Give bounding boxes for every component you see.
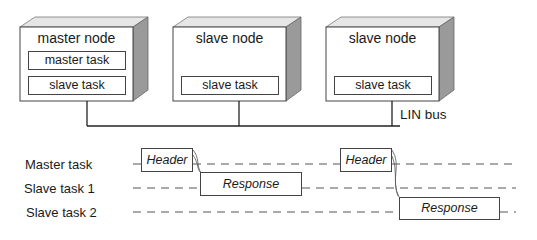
row-label-slave-task-1: Slave task 1 [24, 181, 95, 196]
master-node-master-task: master task [28, 51, 126, 70]
slave-node-1-slave-task: slave task [181, 76, 279, 95]
row-label-slave-task-2: Slave task 2 [26, 205, 97, 220]
response-frame-2: Response [399, 197, 500, 220]
slave-node-2-slave-task: slave task [334, 76, 432, 95]
header-frame-2: Header [340, 148, 392, 172]
slave-node-1-title: slave node [173, 30, 286, 46]
response-frame-1: Response [200, 172, 302, 196]
master-node-slave-task: slave task [28, 76, 126, 95]
master-node-title: master node [20, 30, 133, 46]
slave-node-2-title: slave node [326, 30, 439, 46]
header-frame-1: Header [141, 148, 193, 172]
row-label-master-task: Master task [25, 157, 92, 172]
lin-bus-line [87, 101, 400, 126]
lin-bus-label: LIN bus [400, 107, 447, 122]
